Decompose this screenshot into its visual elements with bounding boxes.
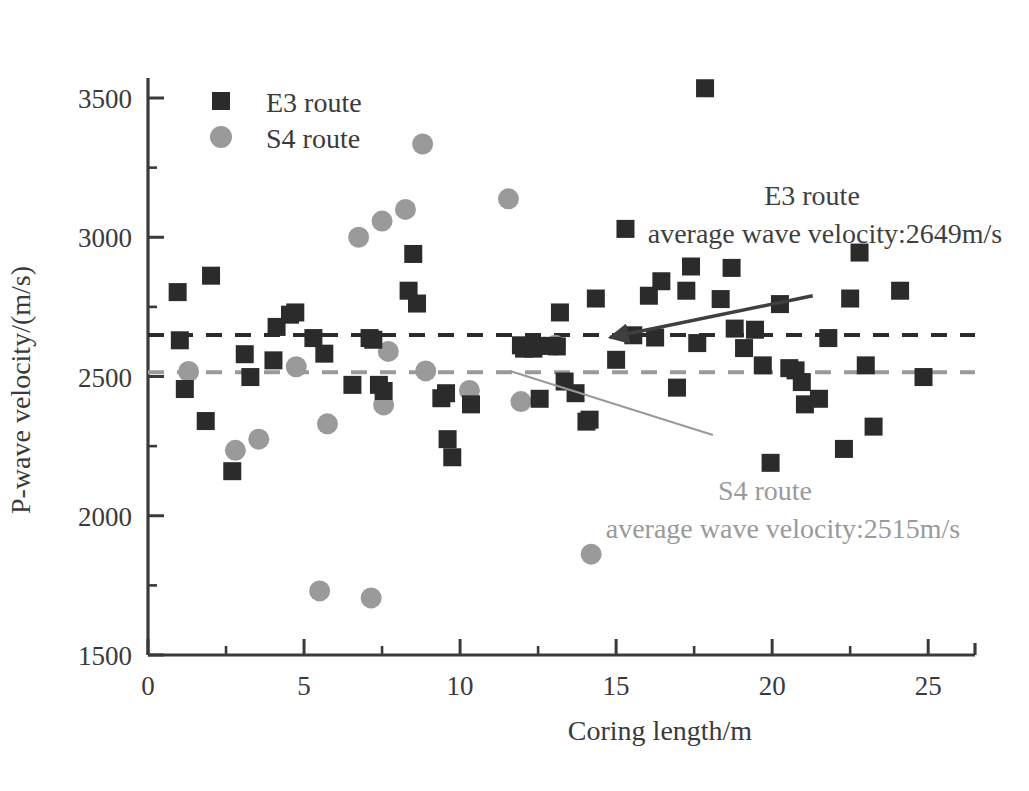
data-point-e3-route (223, 462, 241, 480)
y-axis-title: P-wave velocity/(m/s) (5, 266, 36, 514)
data-point-e3-route (587, 290, 605, 308)
legend-marker-e3-route (212, 92, 230, 110)
data-point-e3-route (375, 382, 393, 400)
data-point-s4-route (361, 587, 382, 608)
data-point-e3-route (891, 282, 909, 300)
legend-label-s4-route: S4 route (266, 123, 360, 154)
data-point-e3-route (364, 331, 382, 349)
annotation-e3-line2: average wave velocity:2649m/s (648, 218, 1003, 249)
data-point-s4-route (286, 356, 307, 377)
data-point-e3-route (176, 380, 194, 398)
data-point-e3-route (315, 345, 333, 363)
data-point-s4-route (581, 544, 602, 565)
data-point-s4-route (498, 188, 519, 209)
data-point-e3-route (810, 390, 828, 408)
data-point-e3-route (857, 356, 875, 374)
annotation-e3-line1: E3 route (764, 180, 860, 211)
data-point-e3-route (746, 321, 764, 339)
data-point-s4-route (317, 413, 338, 434)
y-tick-label: 2000 (78, 502, 132, 532)
data-point-e3-route (408, 295, 426, 313)
data-point-e3-route (241, 368, 259, 386)
data-point-e3-route (712, 290, 730, 308)
data-point-s4-route (395, 199, 416, 220)
data-point-e3-route (607, 351, 625, 369)
data-point-e3-route (688, 334, 706, 352)
data-point-e3-route (462, 395, 480, 413)
data-point-e3-route (581, 411, 599, 429)
data-point-e3-route (723, 259, 741, 277)
data-point-s4-route (248, 429, 269, 450)
y-tick-label: 1500 (78, 641, 132, 671)
data-point-e3-route (682, 257, 700, 275)
data-point-e3-route (443, 448, 461, 466)
data-point-e3-route (286, 303, 304, 321)
data-point-e3-route (404, 245, 422, 263)
data-point-e3-route (548, 337, 566, 355)
x-tick-label: 0 (141, 671, 155, 701)
data-point-e3-route (528, 337, 546, 355)
data-point-e3-route (343, 376, 361, 394)
data-point-s4-route (415, 360, 436, 381)
data-point-e3-route (668, 379, 686, 397)
data-point-e3-route (169, 283, 187, 301)
data-point-e3-route (754, 356, 772, 374)
y-tick-label: 2500 (78, 363, 132, 393)
data-point-s4-route (309, 580, 330, 601)
annotation-s4-line2: average wave velocity:2515m/s (606, 513, 961, 544)
data-point-s4-route (348, 227, 369, 248)
data-point-e3-route (819, 329, 837, 347)
legend-label-e3-route: E3 route (266, 87, 362, 118)
data-point-s4-route (372, 211, 393, 232)
x-tick-labels: 0510152025 (141, 671, 941, 701)
data-point-s4-route (178, 361, 199, 382)
data-point-e3-route (264, 351, 282, 369)
data-point-e3-route (437, 384, 455, 402)
data-point-s4-route (412, 133, 433, 154)
x-axis-title: Coring length/m (568, 715, 753, 746)
y-tick-labels: 15002000250030003500 (78, 84, 132, 671)
x-tick-label: 25 (915, 671, 942, 701)
data-point-e3-route (841, 290, 859, 308)
data-point-e3-route (696, 79, 714, 97)
data-point-e3-route (793, 373, 811, 391)
x-tick-label: 15 (603, 671, 630, 701)
chart-figure: 0510152025 15002000250030003500 Coring l… (0, 0, 1029, 791)
scatter-plot: 0510152025 15002000250030003500 Coring l… (0, 0, 1029, 791)
legend-marker-s4-route (210, 126, 232, 148)
y-tick-label: 3000 (78, 223, 132, 253)
y-tick-label: 3500 (78, 84, 132, 114)
x-tick-label: 20 (759, 671, 786, 701)
x-tick-label: 10 (447, 671, 474, 701)
annotation-s4-route: S4 route average wave velocity:2515m/s (606, 475, 961, 544)
data-point-e3-route (677, 282, 695, 300)
data-point-e3-route (865, 418, 883, 436)
data-point-e3-route (531, 390, 549, 408)
data-point-e3-route (197, 412, 215, 430)
x-tick-label: 5 (297, 671, 311, 701)
data-point-e3-route (616, 220, 634, 238)
data-point-e3-route (236, 345, 254, 363)
data-point-e3-route (551, 303, 569, 321)
data-point-e3-route (304, 329, 322, 347)
data-point-s4-route (225, 440, 246, 461)
data-point-e3-route (652, 272, 670, 290)
data-point-s4-route (510, 391, 531, 412)
data-point-e3-route (835, 440, 853, 458)
annotation-e3-route: E3 route average wave velocity:2649m/s (648, 180, 1003, 249)
data-point-e3-route (171, 331, 189, 349)
data-point-e3-route (439, 430, 457, 448)
data-point-e3-route (726, 320, 744, 338)
data-point-e3-route (915, 368, 933, 386)
annotation-s4-line1: S4 route (718, 475, 812, 506)
data-point-e3-route (202, 267, 220, 285)
legend: E3 route S4 route (210, 87, 362, 154)
data-point-e3-route (735, 339, 753, 357)
data-point-e3-route (762, 454, 780, 472)
